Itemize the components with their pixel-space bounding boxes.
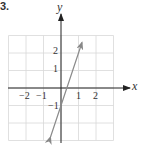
x-tick-2: 2 <box>93 91 98 101</box>
y-axis-label: y <box>57 2 62 12</box>
coordinate-plane <box>0 0 141 151</box>
x-axis-label: x <box>132 81 137 91</box>
y-tick-1: 1 <box>53 64 58 74</box>
x-tick-neg2: −2 <box>19 91 30 101</box>
x-tick-1: 1 <box>76 91 81 101</box>
y-tick-neg1: −1 <box>48 101 59 111</box>
y-tick-2: 2 <box>53 46 58 56</box>
x-tick-neg1: −1 <box>36 91 47 101</box>
